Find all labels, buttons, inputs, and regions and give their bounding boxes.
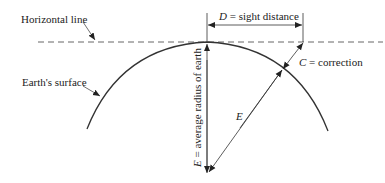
d-sight-distance-label: D = sight distance	[219, 11, 299, 22]
e-average-radius-label: E = average radius of earth	[192, 48, 203, 167]
d-symbol: D	[219, 10, 227, 22]
c-correction-arrow-down	[283, 57, 292, 69]
diagram-canvas: Horizontal line Earth's surface D = sigh…	[0, 0, 385, 183]
c-correction-arrow	[292, 43, 303, 57]
earth-surface-arc	[87, 42, 328, 131]
e-symbol: E	[191, 160, 203, 167]
e-diagonal-label: E	[236, 111, 243, 122]
horizontal-line-label: Horizontal line	[21, 14, 87, 25]
d-text: = sight distance	[227, 10, 299, 22]
radius-diagonal-to-surface	[240, 70, 282, 128]
e-vertical-text: = average radius of earth	[191, 48, 203, 160]
earths-surface-label: Earth's surface	[22, 77, 87, 88]
c-correction-label: C = correction	[299, 57, 363, 68]
c-text: = correction	[306, 56, 362, 68]
